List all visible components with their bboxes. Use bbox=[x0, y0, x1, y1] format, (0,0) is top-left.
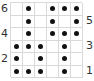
grid-cell-r6-c5 bbox=[59, 3, 71, 16]
grid-cell-r1-c4 bbox=[47, 66, 59, 79]
grid-cell-r2-c6 bbox=[71, 53, 83, 66]
grid-cell-r2-c1 bbox=[11, 53, 23, 66]
grid-cell-r1-c5 bbox=[59, 66, 71, 79]
grid-cell-r4-c5 bbox=[59, 28, 71, 41]
dot-icon bbox=[14, 56, 19, 61]
grid-cell-r3-c4 bbox=[47, 41, 59, 54]
dot-icon bbox=[62, 69, 67, 74]
grid-cell-r5-c1 bbox=[11, 16, 23, 29]
row-label-1: 1 bbox=[86, 65, 93, 77]
dot-icon bbox=[26, 69, 31, 74]
row-label-5: 5 bbox=[86, 15, 93, 27]
grid-cell-r6-c3 bbox=[35, 3, 47, 16]
row-label-6: 6 bbox=[1, 3, 8, 15]
dot-icon bbox=[50, 31, 55, 36]
dot-icon bbox=[38, 56, 43, 61]
dot-icon bbox=[50, 19, 55, 24]
grid-cell-r5-c5 bbox=[59, 16, 71, 29]
dot-icon bbox=[14, 69, 19, 74]
dot-icon bbox=[74, 19, 79, 24]
dot-icon bbox=[38, 69, 43, 74]
dot-icon bbox=[26, 19, 31, 24]
dot-icon bbox=[74, 31, 79, 36]
grid-cell-r4-c1 bbox=[11, 28, 23, 41]
grid-cell-r3-c6 bbox=[71, 41, 83, 54]
dot-icon bbox=[14, 44, 19, 49]
grid-cell-r6-c1 bbox=[11, 3, 23, 16]
grid-cell-r1-c3 bbox=[35, 66, 47, 79]
dot-icon bbox=[38, 44, 43, 49]
grid-cell-r5-c6 bbox=[71, 16, 83, 29]
dot-icon bbox=[26, 6, 31, 11]
grid-cell-r2-c3 bbox=[35, 53, 47, 66]
grid-cell-r3-c1 bbox=[11, 41, 23, 54]
grid-cell-r2-c2 bbox=[23, 53, 35, 66]
row-label-3: 3 bbox=[86, 40, 93, 52]
grid-cell-r5-c3 bbox=[35, 16, 47, 29]
dot-icon bbox=[50, 6, 55, 11]
dot-icon bbox=[62, 56, 67, 61]
grid-cell-r1-c2 bbox=[23, 66, 35, 79]
grid-cell-r3-c3 bbox=[35, 41, 47, 54]
dot-grid-chart: 6 5 4 3 2 1 bbox=[0, 0, 94, 81]
grid-cell-r4-c4 bbox=[47, 28, 59, 41]
grid-cell-r4-c2 bbox=[23, 28, 35, 41]
grid-cell-r6-c4 bbox=[47, 3, 59, 16]
dot-icon bbox=[62, 6, 67, 11]
dot-icon bbox=[26, 31, 31, 36]
dot-icon bbox=[62, 44, 67, 49]
dot-icon bbox=[62, 31, 67, 36]
grid-cell-r5-c4 bbox=[47, 16, 59, 29]
grid-cell-r2-c4 bbox=[47, 53, 59, 66]
grid-cell-r3-c2 bbox=[23, 41, 35, 54]
grid-cell-r4-c6 bbox=[71, 28, 83, 41]
row-label-4: 4 bbox=[1, 28, 8, 40]
grid-cell-r6-c6 bbox=[71, 3, 83, 16]
dot-icon bbox=[74, 6, 79, 11]
row-label-2: 2 bbox=[1, 53, 8, 65]
grid-cell-r4-c3 bbox=[35, 28, 47, 41]
grid-cell-r6-c2 bbox=[23, 3, 35, 16]
dot-icon bbox=[26, 44, 31, 49]
grid-cell-r2-c5 bbox=[59, 53, 71, 66]
dot-grid bbox=[10, 2, 82, 77]
grid-cell-r5-c2 bbox=[23, 16, 35, 29]
grid-cell-r3-c5 bbox=[59, 41, 71, 54]
grid-cell-r1-c1 bbox=[11, 66, 23, 79]
grid-cell-r1-c6 bbox=[71, 66, 83, 79]
